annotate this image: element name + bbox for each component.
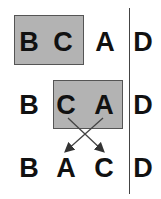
swap-arrows <box>0 0 161 199</box>
